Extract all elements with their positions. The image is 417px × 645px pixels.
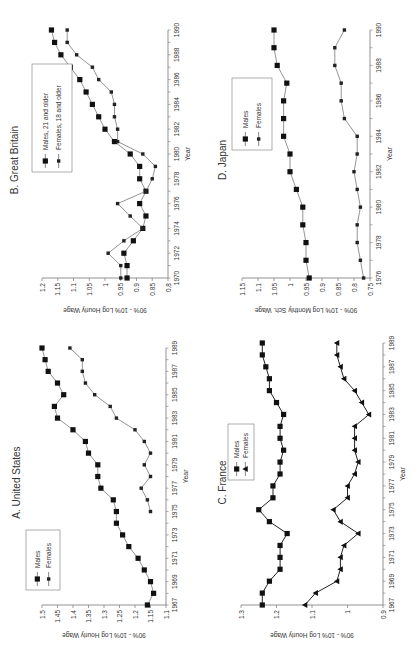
y-tick-label: 0.8 xyxy=(351,283,358,292)
data-point xyxy=(277,424,282,429)
series-females xyxy=(68,346,152,513)
data-point xyxy=(115,416,118,419)
x-tick-label: 1969 xyxy=(388,574,395,589)
y-tick-label: 1 xyxy=(287,283,294,287)
x-tick-label: 1985 xyxy=(388,383,395,398)
data-point xyxy=(106,252,109,255)
data-point xyxy=(277,555,282,560)
data-point xyxy=(111,497,116,502)
x-tick-label: 1989 xyxy=(171,340,178,355)
x-tick-label: 1971 xyxy=(171,551,178,566)
y-tick-label: 1.35 xyxy=(85,610,92,623)
legend-label: Males xyxy=(233,440,240,458)
data-point xyxy=(303,258,308,263)
data-point xyxy=(66,28,69,31)
x-axis-label: Year xyxy=(386,146,393,161)
legend-box xyxy=(232,78,272,150)
x-tick-label: 1987 xyxy=(388,359,395,374)
data-point xyxy=(121,251,126,256)
data-point xyxy=(359,400,364,406)
series-males xyxy=(271,27,311,280)
data-point xyxy=(281,412,286,417)
data-point xyxy=(81,370,84,373)
data-point xyxy=(119,264,122,267)
x-tick-label: 1972 xyxy=(173,246,180,261)
data-point xyxy=(124,263,129,268)
data-point xyxy=(352,170,355,173)
x-tick-label: 1978 xyxy=(173,171,180,186)
x-axis-label: Year xyxy=(399,466,406,481)
y-axis-label: 90% - 10% Log Monthly Sch. Wage xyxy=(254,306,357,314)
data-point xyxy=(137,201,142,206)
x-tick-label: 1981 xyxy=(388,431,395,446)
legend-marker xyxy=(43,158,48,163)
data-point xyxy=(55,415,60,420)
chart-title: A. United States xyxy=(11,446,22,518)
series-females xyxy=(302,340,371,608)
series-females xyxy=(333,28,365,279)
data-point xyxy=(287,169,292,174)
legend-marker xyxy=(234,466,239,471)
data-point xyxy=(281,116,286,121)
data-point xyxy=(154,165,157,168)
y-tick-label: 1.5 xyxy=(39,610,46,619)
chart-title: B. Great Britain xyxy=(9,126,20,194)
data-point xyxy=(96,114,101,119)
data-point xyxy=(75,53,78,56)
data-point xyxy=(149,451,152,454)
x-tick-label: 1976 xyxy=(375,270,382,285)
y-tick-label: 1.4 xyxy=(70,610,77,619)
data-point xyxy=(46,369,51,374)
x-tick-label: 1987 xyxy=(171,364,178,379)
data-point xyxy=(137,164,142,169)
data-point xyxy=(277,543,282,548)
data-point xyxy=(356,223,359,226)
y-tick-label: 0.95 xyxy=(303,283,310,296)
legend-label: Females xyxy=(45,542,52,568)
y-tick-label: 0.95 xyxy=(117,283,124,296)
data-point xyxy=(116,128,119,131)
series-line xyxy=(259,343,287,605)
x-tick-label: 1982 xyxy=(173,122,180,137)
data-point xyxy=(91,66,94,69)
y-tick-label: 1.05 xyxy=(86,283,93,296)
data-point xyxy=(109,405,112,408)
data-point xyxy=(302,602,307,608)
y-tick-label: 1.2 xyxy=(39,283,46,292)
x-tick-label: 1977 xyxy=(171,481,178,496)
y-tick-label: 1.15 xyxy=(239,283,246,296)
y-tick-label: 0.9 xyxy=(133,283,140,292)
y-tick-label: 1.1 xyxy=(163,610,170,619)
y-tick-label: 0.8 xyxy=(165,283,172,292)
x-tick-label: 1985 xyxy=(171,387,178,402)
data-point xyxy=(93,393,96,396)
x-tick-label: 1990 xyxy=(173,22,180,37)
data-point xyxy=(66,41,69,44)
legend: MalesFemales xyxy=(228,424,254,480)
chart-title: C. France xyxy=(217,460,228,504)
y-tick-label: 1.1 xyxy=(255,283,262,292)
data-point xyxy=(143,213,148,218)
data-point xyxy=(126,544,131,549)
y-tick-label: 1.25 xyxy=(116,610,123,623)
data-point xyxy=(275,63,280,68)
data-point xyxy=(277,436,282,441)
data-point xyxy=(359,205,362,208)
series-line xyxy=(305,343,369,605)
data-point xyxy=(52,404,57,409)
y-tick-label: 0.9 xyxy=(380,610,387,619)
legend-label: Males xyxy=(34,550,41,568)
data-point xyxy=(102,127,107,132)
data-point xyxy=(55,380,60,385)
data-point xyxy=(143,463,146,466)
y-tick-label: 0.85 xyxy=(149,283,156,296)
legend-marker xyxy=(243,136,248,141)
data-point xyxy=(277,471,282,476)
data-point xyxy=(144,190,147,193)
data-point xyxy=(287,151,292,156)
data-point xyxy=(330,507,335,513)
data-point xyxy=(307,275,312,280)
data-point xyxy=(281,98,286,103)
data-point xyxy=(260,340,265,345)
x-tick-label: 1983 xyxy=(171,410,178,425)
